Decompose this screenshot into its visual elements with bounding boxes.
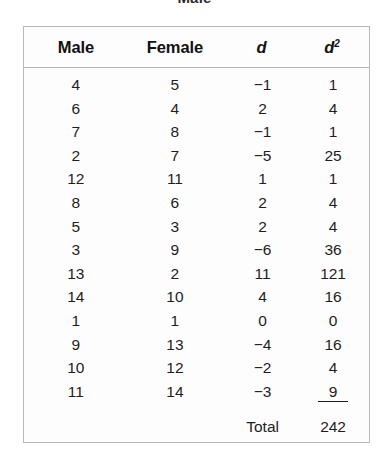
- cell-female: 8: [126, 120, 224, 144]
- cell-d: −3: [224, 380, 305, 404]
- table-row: 10 12 −2 4: [24, 356, 369, 380]
- table-row: 1 1 0 0: [24, 309, 369, 333]
- cell-d-squared: 0: [305, 309, 369, 333]
- cell-male: 10: [24, 356, 126, 380]
- statistics-table-frame: Male Female d d2 4 5 −1 1 6 4 2 4 7 8: [23, 26, 370, 443]
- cell-d-squared: 1: [305, 167, 369, 191]
- cell-d-squared: 121: [305, 262, 369, 286]
- cell-d-squared: 4: [305, 356, 369, 380]
- cell-female: 2: [126, 262, 224, 286]
- cell-d: −1: [224, 120, 305, 144]
- cell-d-squared: 4: [305, 215, 369, 239]
- cell-d-squared: 1: [305, 120, 369, 144]
- cell-d-squared: 4: [305, 97, 369, 121]
- table-row: 4 5 −1 1: [24, 68, 369, 97]
- cell-male: 7: [24, 120, 126, 144]
- cell-d-squared: 25: [305, 144, 369, 168]
- cell-d: −5: [224, 144, 305, 168]
- cell-d: −4: [224, 333, 305, 357]
- cell-female: 4: [126, 97, 224, 121]
- table-row: 11 14 −3 9: [24, 380, 369, 404]
- cell-female: 11: [126, 167, 224, 191]
- cell-d-squared: 1: [305, 68, 369, 97]
- table-header: Male Female d d2: [24, 27, 369, 68]
- column-header-d: d: [224, 27, 305, 68]
- column-header-male: Male: [24, 27, 126, 68]
- cell-d-squared: 4: [305, 191, 369, 215]
- cell-male: 11: [24, 380, 126, 404]
- cell-d-squared: 36: [305, 238, 369, 262]
- table-row: 8 6 2 4: [24, 191, 369, 215]
- table-row: 2 7 −5 25: [24, 144, 369, 168]
- cell-female: 6: [126, 191, 224, 215]
- table-total-row: Total 242: [24, 403, 369, 442]
- cell-d: 0: [224, 309, 305, 333]
- cell-male: 5: [24, 215, 126, 239]
- table-body: 4 5 −1 1 6 4 2 4 7 8 −1 1 2 7 −5 25: [24, 68, 369, 443]
- cell-d: 2: [224, 191, 305, 215]
- cell-female: 1: [126, 309, 224, 333]
- cell-d: 2: [224, 97, 305, 121]
- cell-female: 10: [126, 285, 224, 309]
- cell-male: 6: [24, 97, 126, 121]
- cell-female: 12: [126, 356, 224, 380]
- total-value: 242: [305, 403, 369, 442]
- cell-d: 4: [224, 285, 305, 309]
- rank-difference-table: Male Female d d2 4 5 −1 1 6 4 2 4 7 8: [24, 27, 369, 442]
- cell-d-squared: 16: [305, 285, 369, 309]
- cell-female: 5: [126, 68, 224, 97]
- cell-d-squared: 9: [305, 380, 369, 404]
- table-header-row: Male Female d d2: [24, 27, 369, 68]
- cell-d: 1: [224, 167, 305, 191]
- column-header-d-squared-exponent: 2: [334, 38, 339, 49]
- table-row: 5 3 2 4: [24, 215, 369, 239]
- table-row: 14 10 4 16: [24, 285, 369, 309]
- cell-d: −6: [224, 238, 305, 262]
- cell-male: 9: [24, 333, 126, 357]
- column-header-d-squared: d2: [305, 27, 369, 68]
- total-spacer-male: [24, 403, 126, 442]
- cell-d: −1: [224, 68, 305, 97]
- column-header-d-squared-text: d: [324, 38, 334, 56]
- cell-male: 14: [24, 285, 126, 309]
- column-header-female: Female: [126, 27, 224, 68]
- cell-female: 7: [126, 144, 224, 168]
- column-header-d-text: d: [257, 38, 267, 56]
- summation-rule: [318, 401, 348, 403]
- table-row: 9 13 −4 16: [24, 333, 369, 357]
- cell-male: 2: [24, 144, 126, 168]
- cropped-caption-fragment: Male: [0, 0, 389, 6]
- table-row: 12 11 1 1: [24, 167, 369, 191]
- cell-female: 3: [126, 215, 224, 239]
- cell-male: 3: [24, 238, 126, 262]
- cell-female: 9: [126, 238, 224, 262]
- total-label: Total: [224, 403, 305, 442]
- table-row: 13 2 11 121: [24, 262, 369, 286]
- table-row: 3 9 −6 36: [24, 238, 369, 262]
- cell-female: 14: [126, 380, 224, 404]
- cell-female: 13: [126, 333, 224, 357]
- cell-d: −2: [224, 356, 305, 380]
- cell-male: 8: [24, 191, 126, 215]
- table-row: 7 8 −1 1: [24, 120, 369, 144]
- cell-d: 2: [224, 215, 305, 239]
- cell-d-squared-value: 9: [329, 383, 338, 400]
- cell-male: 12: [24, 167, 126, 191]
- table-row: 6 4 2 4: [24, 97, 369, 121]
- cell-male: 1: [24, 309, 126, 333]
- cell-male: 13: [24, 262, 126, 286]
- cell-d: 11: [224, 262, 305, 286]
- cell-male: 4: [24, 68, 126, 97]
- total-spacer-female: [126, 403, 224, 442]
- cell-d-squared: 16: [305, 333, 369, 357]
